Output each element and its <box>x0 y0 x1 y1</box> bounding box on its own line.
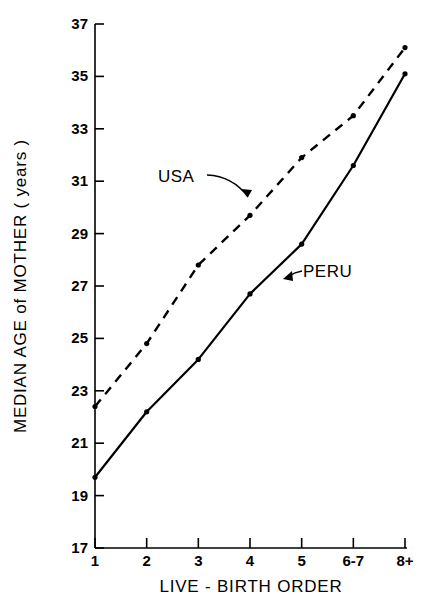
y-axis-ticks: 1719212325272931333537 <box>71 15 104 556</box>
usa-leader-line <box>207 175 248 197</box>
series-points-peru <box>92 71 407 480</box>
y-tick-label: 25 <box>71 329 88 346</box>
y-tick-label: 17 <box>71 539 88 556</box>
data-point <box>299 242 304 247</box>
data-point <box>196 357 201 362</box>
data-point <box>299 155 304 160</box>
data-point <box>196 262 201 267</box>
data-point <box>92 475 97 480</box>
series-points-usa <box>92 45 407 409</box>
x-tick-label: 3 <box>194 552 202 569</box>
x-tick-label: 6-7 <box>342 552 364 569</box>
series-label-usa: USA <box>158 167 195 186</box>
y-axis-title: MEDIAN AGE of MOTHER ( years ) <box>11 139 30 433</box>
data-point <box>247 291 252 296</box>
y-tick-label: 21 <box>71 434 88 451</box>
x-axis-title: LIVE - BIRTH ORDER <box>159 577 342 596</box>
x-axis-ticks: 123456-78+ <box>91 538 414 569</box>
chart-figure: 1719212325272931333537 123456-78+ USA PE… <box>0 0 436 606</box>
data-point <box>144 409 149 414</box>
peru-leader-arrowhead <box>283 271 293 281</box>
data-point <box>92 404 97 409</box>
series-line-usa <box>95 48 405 407</box>
y-tick-label: 31 <box>71 172 88 189</box>
x-tick-label: 4 <box>246 552 255 569</box>
x-tick-label: 1 <box>91 552 99 569</box>
y-tick-label: 29 <box>71 225 88 242</box>
data-point <box>247 213 252 218</box>
data-point <box>402 45 407 50</box>
series-line-peru <box>95 74 405 478</box>
x-tick-label: 5 <box>297 552 305 569</box>
y-tick-label: 33 <box>71 120 88 137</box>
data-point <box>351 113 356 118</box>
y-tick-label: 37 <box>71 15 88 32</box>
data-point <box>144 341 149 346</box>
y-tick-label: 27 <box>71 277 88 294</box>
y-tick-label: 35 <box>71 67 88 84</box>
y-tick-label: 23 <box>71 382 88 399</box>
chart-canvas: 1719212325272931333537 123456-78+ USA PE… <box>0 0 436 606</box>
data-point <box>351 163 356 168</box>
x-tick-label: 2 <box>142 552 150 569</box>
data-point <box>402 71 407 76</box>
y-tick-label: 19 <box>71 487 88 504</box>
x-tick-label: 8+ <box>396 552 413 569</box>
series-label-peru: PERU <box>303 262 352 281</box>
